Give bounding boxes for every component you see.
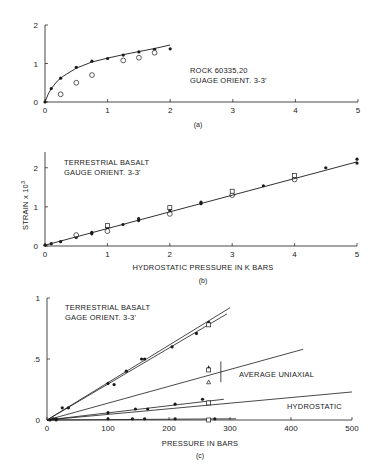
fit-line-uniaxial-upper-1 (47, 308, 230, 420)
chart-a-annotation-line1: ROCK 60335,20 (190, 66, 248, 75)
data-point-filled (324, 166, 327, 169)
data-point-filled (67, 406, 70, 409)
chart-a-annotation-line2: GUAGE ORIENT. 3-3' (190, 76, 267, 85)
chart-b-ylabel-text: STRAIN x 103 (20, 181, 30, 230)
data-point-filled (355, 158, 358, 161)
chart-c: 01002003004005000.51 TERRESTRIAL BASALT … (33, 294, 359, 460)
data-point-filled (113, 383, 116, 386)
data-point-filled (174, 403, 177, 406)
x-tick-label: 2 (168, 250, 173, 259)
data-point-filled (52, 417, 55, 420)
data-point-triangle (207, 380, 211, 384)
y-tick-label: 1 (34, 203, 39, 212)
x-tick-label: 3 (231, 106, 236, 115)
chart-b-annotation-line2: GAUGE ORIENT. 3-3' (64, 168, 141, 177)
data-point-filled (55, 418, 58, 421)
chart-a-caption: (a) (194, 121, 203, 129)
chart-c-label-average-uniaxial: AVERAGE UNIAXIAL (239, 370, 314, 379)
data-point-open (90, 73, 95, 78)
y-tick-label: .5 (33, 355, 40, 364)
data-point-open (137, 55, 142, 60)
y-tick-label: 0 (34, 98, 39, 107)
data-point-open (58, 92, 63, 97)
chart-a: 012345012 ROCK 60335,20 GUAGE ORIENT. 3-… (34, 21, 361, 129)
x-tick-label: 200 (162, 424, 176, 433)
data-point-open (121, 58, 126, 63)
y-tick-label: 0 (36, 416, 41, 425)
data-point-filled (174, 417, 177, 420)
y-tick-label: 2 (34, 164, 39, 173)
x-tick-label: 5 (356, 106, 361, 115)
chart-c-annotation-line1: TERRESTRIAL BASALT (65, 303, 151, 312)
data-point-filled (125, 370, 128, 373)
x-tick-label: 500 (345, 424, 359, 433)
data-point-filled (61, 406, 64, 409)
x-tick-label: 4 (293, 106, 298, 115)
data-point-filled (169, 47, 172, 50)
data-point-filled (146, 407, 149, 410)
data-point-square (207, 368, 211, 372)
y-tick-label: 2 (34, 21, 39, 30)
chart-c-label-hydrostatic: HYDROSTATIC (287, 402, 342, 411)
y-tick-label: 0 (34, 242, 39, 251)
data-point-square (207, 401, 211, 405)
chart-b: 012345012 TERRESTRIAL BASALT GAUGE ORIEN… (20, 152, 360, 285)
chart-b-xlabel: HYDROSTATIC PRESSURE IN K BARS (132, 263, 273, 272)
data-point-filled (131, 417, 134, 420)
data-point-filled (106, 382, 109, 385)
data-point-filled (170, 345, 173, 348)
x-tick-label: 5 (355, 250, 360, 259)
data-point-filled (106, 411, 109, 414)
x-tick-label: 0 (43, 106, 48, 115)
x-tick-label: 1 (105, 106, 110, 115)
y-tick-label: 1 (34, 60, 39, 69)
data-point-filled (201, 398, 204, 401)
y-tick-label: 1 (36, 294, 41, 303)
x-tick-label: 100 (101, 424, 115, 433)
x-tick-label: 0 (43, 250, 48, 259)
data-point-filled (140, 357, 143, 360)
x-tick-label: 3 (230, 250, 235, 259)
fit-curve (45, 45, 170, 102)
data-point-filled (143, 357, 146, 360)
x-tick-label: 4 (292, 250, 297, 259)
fit-line-average-uniaxial (47, 349, 303, 420)
data-point-filled (106, 417, 109, 420)
chart-b-ylabel: STRAIN x 103 (20, 181, 30, 230)
x-tick-label: 300 (223, 424, 237, 433)
chart-b-caption: (b) (199, 277, 208, 285)
data-point-filled (195, 332, 198, 335)
data-point-open (74, 80, 79, 85)
chart-a-plot (43, 45, 171, 104)
x-tick-label: 400 (284, 424, 298, 433)
fit-line-uniaxial-upper-2 (47, 314, 227, 420)
data-point-filled (143, 417, 146, 420)
chart-c-caption: (c) (196, 452, 204, 460)
figure-canvas: 012345012 ROCK 60335,20 GUAGE ORIENT. 3-… (0, 0, 381, 472)
data-point-square (207, 323, 211, 327)
data-point-square (207, 418, 211, 422)
data-point-square (168, 206, 172, 210)
x-tick-label: 1 (105, 250, 110, 259)
x-tick-label: 2 (168, 106, 173, 115)
x-tick-label: 0 (45, 424, 50, 433)
data-point-open (152, 50, 157, 55)
chart-b-annotation-line1: TERRESTRIAL BASALT (64, 158, 150, 167)
data-point-filled (48, 418, 51, 421)
data-point-filled (213, 417, 216, 420)
chart-c-annotation-line2: GAGE ORIENT. 3-3' (65, 313, 136, 322)
data-point-square (105, 224, 109, 228)
data-point-filled (134, 407, 137, 410)
chart-c-xlabel: PRESSURE IN BARS (162, 439, 239, 448)
data-point-square (293, 174, 297, 178)
data-point-square (230, 189, 234, 193)
